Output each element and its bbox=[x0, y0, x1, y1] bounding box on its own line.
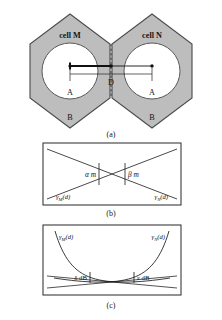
panel-c-gamma-n-arg: (d) bbox=[157, 233, 165, 241]
panel-c-epsilon-label: ε dB bbox=[137, 274, 150, 281]
panel-b-crossing-lines-plot: α m β m γM(d) γN(d) (b) bbox=[43, 143, 181, 218]
cell-n-label: cell N bbox=[142, 31, 162, 40]
panel-b-alpha-label: α m bbox=[85, 170, 97, 179]
radius-label-a-right: A bbox=[149, 88, 155, 97]
hex-label-b-left: B bbox=[67, 113, 73, 122]
panel-b-gamma-m-arg: (d) bbox=[62, 193, 70, 201]
panel-c-ushape-curves-plot: δ dB ε dB γM(d) γN(d) (c) bbox=[43, 225, 181, 310]
panel-c-delta-label: δ dB bbox=[74, 274, 87, 281]
caption-b: (b) bbox=[106, 209, 116, 218]
distance-line-midpoint bbox=[109, 64, 112, 67]
cell-m-label: cell M bbox=[59, 31, 81, 40]
panel-c-gamma-m-arg: (d) bbox=[65, 233, 73, 241]
panel-b-gamma-n-arg: (d) bbox=[160, 193, 168, 201]
hex-label-b-right: B bbox=[149, 113, 155, 122]
caption-a: (a) bbox=[107, 130, 116, 139]
caption-c: (c) bbox=[107, 301, 116, 310]
radius-label-a-left: A bbox=[67, 88, 73, 97]
panel-a-cell-geometry: cell M cell N A A B B D (a) bbox=[30, 14, 192, 139]
distance-line-endpoint-n bbox=[150, 64, 153, 67]
distance-label-d: D bbox=[108, 78, 114, 87]
panel-b-beta-label: β m bbox=[127, 170, 140, 179]
three-panel-figure: cell M cell N A A B B D (a) α m β m γM(d… bbox=[0, 0, 222, 320]
